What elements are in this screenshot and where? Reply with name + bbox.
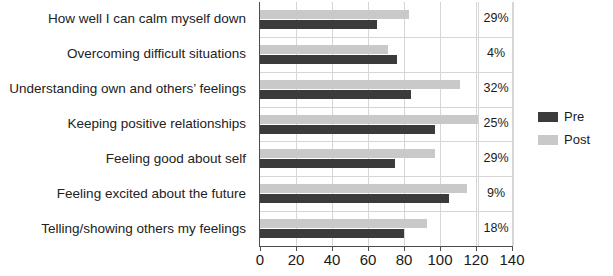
percent-change-value: 9%	[479, 186, 513, 200]
bar-post	[260, 45, 388, 54]
percent-row-separator	[479, 37, 513, 38]
x-tick-label: 80	[384, 251, 424, 268]
chart-legend: PrePost	[538, 107, 608, 153]
category-label: Feeling good about self	[0, 151, 246, 167]
bar-post	[260, 80, 460, 89]
bar-post	[260, 219, 427, 228]
bar-pre	[260, 20, 377, 29]
bar-post	[260, 115, 478, 124]
category-label: Overcoming difficult situations	[0, 46, 246, 62]
legend-item[interactable]: Pre	[538, 107, 608, 126]
category-label: Keeping positive relationships	[0, 116, 246, 132]
x-axis-tick-labels: 020406080100120140	[260, 251, 512, 275]
percent-change-value: 25%	[479, 116, 513, 130]
legend-swatch-icon	[538, 135, 558, 145]
percent-row-separator	[479, 176, 513, 177]
bar-pre	[260, 194, 449, 203]
category-label: Understanding own and others’ feelings	[0, 81, 246, 97]
x-tick-label: 100	[420, 251, 460, 268]
gridline-horizontal	[260, 72, 512, 73]
x-tick-label: 20	[276, 251, 316, 268]
category-label: Feeling excited about the future	[0, 186, 246, 202]
percent-change-value: 29%	[479, 11, 513, 25]
bar-post	[260, 184, 467, 193]
legend-label: Pre	[564, 109, 584, 124]
x-tick-label: 0	[240, 251, 280, 268]
bar-post	[260, 149, 435, 158]
plot-area	[260, 2, 512, 246]
bar-post	[260, 10, 409, 19]
category-axis-labels: How well I can calm myself downOvercomin…	[0, 2, 250, 246]
gridline-horizontal	[260, 141, 512, 142]
percent-change-value: 32%	[479, 81, 513, 95]
percent-row-separator	[479, 107, 513, 108]
x-tick-label: 120	[456, 251, 496, 268]
gridline-horizontal	[260, 176, 512, 177]
x-tick-label: 40	[312, 251, 352, 268]
category-label: Telling/showing others my feelings	[0, 221, 246, 237]
percent-row-separator	[479, 141, 513, 142]
category-label: How well I can calm myself down	[0, 11, 246, 27]
percent-row-separator	[479, 211, 513, 212]
bar-pre	[260, 55, 397, 64]
legend-item[interactable]: Post	[538, 130, 608, 149]
x-tick-label: 60	[348, 251, 388, 268]
percent-change-value: 18%	[479, 221, 513, 235]
gridline-horizontal	[260, 37, 512, 38]
bar-chart: How well I can calm myself downOvercomin…	[0, 0, 613, 276]
gridline-horizontal	[260, 107, 512, 108]
bar-pre	[260, 90, 411, 99]
percent-change-value: 29%	[479, 151, 513, 165]
legend-swatch-icon	[538, 112, 558, 122]
gridline-vertical	[440, 2, 441, 246]
x-tick-label: 140	[492, 251, 532, 268]
percent-change-value: 4%	[479, 46, 513, 60]
bar-pre	[260, 159, 395, 168]
gridline-vertical	[476, 2, 477, 246]
bar-pre	[260, 125, 435, 134]
percent-row-separator	[479, 72, 513, 73]
bar-pre	[260, 229, 404, 238]
gridline-horizontal	[260, 211, 512, 212]
legend-label: Post	[564, 132, 590, 147]
percent-change-column: 29%4%32%25%29%9%18%	[478, 2, 514, 246]
